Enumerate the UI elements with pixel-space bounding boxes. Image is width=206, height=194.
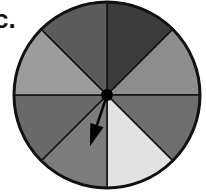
spinner-pivot xyxy=(101,89,113,101)
spinner xyxy=(0,0,206,194)
